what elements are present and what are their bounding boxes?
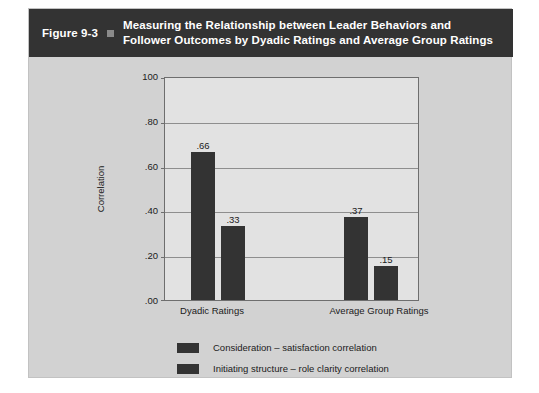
y-axis-title: Correlation: [93, 77, 109, 301]
bar-value-avggroup-consideration: .37: [344, 205, 368, 216]
bar-avggroup-consideration: [344, 217, 368, 300]
plot-area: .66 .33 .37 .15: [164, 77, 419, 301]
y-tick-label-40: .40: [145, 206, 158, 216]
figure-number: Figure 9-3: [42, 27, 98, 39]
bar-dyadic-initiating: [221, 226, 245, 300]
chart-legend: Consideration – satisfaction correlation…: [177, 339, 389, 381]
figure-title: Measuring the Relationship between Leade…: [123, 18, 493, 48]
bar-dyadic-consideration: [191, 152, 215, 300]
legend-swatch-initiating-structure: [177, 364, 199, 374]
y-tick-label-20: .20: [145, 251, 158, 261]
tick-00: [161, 300, 165, 301]
bar-value-avggroup-initiating: .15: [374, 254, 398, 265]
tick-60: [161, 168, 165, 169]
legend-swatch-consideration: [177, 343, 199, 353]
tick-40: [161, 212, 165, 213]
tick-20: [161, 257, 165, 258]
chart-area: Correlation 100 .80 .60 .40 .20 .00 .66 …: [29, 57, 513, 379]
bar-value-dyadic-initiating: .33: [221, 214, 245, 225]
category-label-average-group-ratings: Average Group Ratings: [309, 305, 449, 316]
legend-label-consideration: Consideration – satisfaction correlation: [213, 342, 377, 353]
figure-title-line-2: Follower Outcomes by Dyadic Ratings and …: [123, 33, 493, 48]
tick-100: [161, 78, 165, 79]
figure-container: Figure 9-3 Measuring the Relationship be…: [28, 8, 512, 378]
y-tick-label-00: .00: [145, 296, 158, 306]
y-tick-label-80: .80: [145, 117, 158, 127]
tick-80: [161, 123, 165, 124]
category-label-dyadic-ratings: Dyadic Ratings: [162, 305, 262, 316]
figure-title-line-1: Measuring the Relationship between Leade…: [123, 18, 493, 33]
legend-label-initiating-structure: Initiating structure – role clarity corr…: [213, 363, 389, 374]
bar-avggroup-initiating: [374, 266, 398, 300]
y-axis-tick-labels: 100 .80 .60 .40 .20 .00: [124, 77, 158, 301]
header-separator-square: [107, 30, 114, 37]
legend-item-consideration: Consideration – satisfaction correlation: [177, 339, 389, 356]
bar-value-dyadic-consideration: .66: [191, 140, 215, 151]
y-tick-label-100: 100: [142, 72, 158, 82]
figure-header: Figure 9-3 Measuring the Relationship be…: [29, 9, 513, 57]
y-tick-label-60: .60: [145, 162, 158, 172]
gridline-80: [165, 123, 418, 124]
legend-item-initiating-structure: Initiating structure – role clarity corr…: [177, 360, 389, 377]
